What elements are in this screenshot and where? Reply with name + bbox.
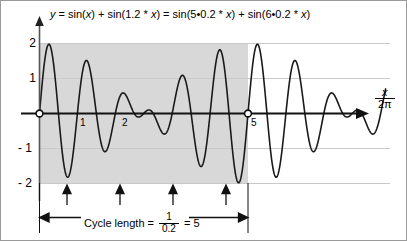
y-axis-arrowhead [35, 16, 44, 26]
beat-arrow-1 [63, 185, 71, 205]
marker-cycle-end [245, 110, 252, 117]
plot-canvas [1, 1, 407, 241]
equation-eq2: ) = sin(5•0.2 * [156, 8, 226, 20]
cycle-length-numerator: 1 [163, 212, 175, 223]
cycle-length-denominator: 0.2 [159, 223, 179, 235]
y-tick-label-minus2: - 2 [10, 177, 32, 189]
beat-minima-arrows [63, 185, 230, 205]
x-tick-label-5: 5 [251, 118, 257, 128]
beat-arrow-2 [116, 185, 124, 205]
beat-arrow-4 [222, 185, 230, 205]
cycle-length-fraction: 1 0.2 [159, 212, 179, 234]
y-tick-label-minus1: - 1 [10, 142, 32, 154]
x-tick-label-1: 1 [80, 118, 86, 128]
x-axis-name: x 2π [375, 87, 395, 110]
equation-title: y = sin(x) + sin(1.2 * x) = sin(5•0.2 * … [50, 9, 310, 20]
equation-tail2: ) [307, 8, 311, 20]
equation-tail1: ) + sin(6•0.2 * [231, 8, 301, 20]
equation-mid: ) + sin(1.2 * [91, 8, 151, 20]
equation-eq1: = sin( [56, 8, 86, 20]
x-axis-name-denominator: 2π [375, 98, 395, 110]
beat-arrow-3 [169, 185, 177, 205]
x-axis-arrowhead [356, 108, 369, 119]
y-tick-label-2: 2 [14, 37, 36, 49]
cycle-length-equals: = 5 [184, 218, 200, 229]
x-axis-name-numerator: x [375, 87, 395, 98]
cycle-length-label: Cycle length = [84, 218, 154, 229]
cycle-length-caption: Cycle length = 1 0.2 = 5 [84, 212, 200, 234]
beat-waveform-figure: y = sin(x) + sin(1.2 * x) = sin(5•0.2 * … [0, 0, 407, 241]
x-tick-label-2: 2 [122, 118, 128, 128]
y-tick-label-1: 1 [14, 72, 36, 84]
marker-origin [36, 110, 43, 117]
